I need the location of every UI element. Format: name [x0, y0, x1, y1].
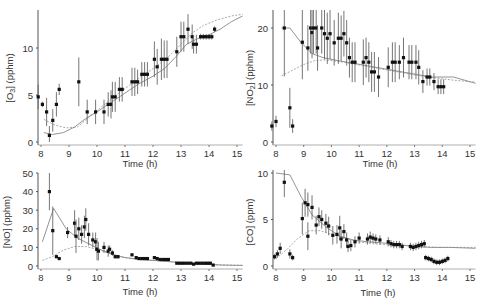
data-point — [97, 250, 100, 253]
data-point — [274, 120, 277, 123]
data-point — [335, 233, 338, 236]
o3-xlabel: Time (h) — [122, 158, 157, 169]
data-point — [410, 61, 413, 64]
data-point — [306, 46, 309, 49]
data-point — [130, 253, 133, 256]
data-point — [179, 35, 182, 38]
data-point — [276, 252, 279, 255]
data-point — [51, 119, 54, 122]
data-point — [51, 229, 54, 232]
no2-observed-points — [270, 10, 445, 133]
y-tick-label: 0 — [263, 137, 268, 148]
data-point — [387, 66, 390, 69]
data-point — [338, 226, 341, 229]
data-point — [273, 255, 276, 258]
data-point — [108, 248, 111, 251]
data-point — [441, 260, 444, 263]
no-ylabel: [NO] (pphm) — [1, 196, 12, 248]
data-point — [398, 61, 401, 64]
data-point — [130, 80, 133, 83]
data-point — [337, 37, 340, 40]
x-tick-label: 8 — [38, 148, 43, 159]
data-point — [213, 28, 216, 31]
data-point — [394, 61, 397, 64]
data-point — [373, 70, 376, 73]
data-point — [45, 110, 48, 113]
data-point — [192, 263, 195, 266]
data-point — [414, 245, 417, 248]
data-point — [200, 262, 203, 265]
data-point — [192, 43, 195, 46]
data-point — [371, 237, 374, 240]
data-point — [55, 255, 58, 258]
data-point — [423, 242, 426, 245]
data-point — [136, 80, 139, 83]
data-point — [84, 218, 87, 221]
data-point — [417, 244, 420, 247]
x-tick-label: 10 — [92, 148, 103, 159]
data-point — [391, 61, 394, 64]
data-point — [364, 56, 367, 59]
data-point — [189, 262, 192, 265]
data-point — [389, 242, 392, 245]
data-point — [207, 35, 210, 38]
y-tick-label: 50 — [22, 168, 33, 179]
data-point — [353, 61, 356, 64]
data-point — [137, 257, 140, 260]
data-point — [199, 35, 202, 38]
x-tick-label: 15 — [465, 148, 476, 159]
data-point — [143, 73, 146, 76]
x-tick-label: 8 — [273, 272, 278, 283]
data-point — [135, 256, 138, 259]
data-point — [140, 73, 143, 76]
data-point — [121, 88, 124, 91]
data-point — [346, 245, 349, 248]
data-point — [315, 223, 318, 226]
data-point — [114, 95, 117, 98]
data-point — [195, 262, 198, 265]
x-tick-label: 14 — [204, 148, 215, 159]
panel-o3-chart: [O3] (pphm) Time (h) 051089101112131415 — [4, 10, 243, 169]
data-point — [425, 75, 428, 78]
data-point — [143, 257, 146, 260]
x-tick-label: 11 — [354, 272, 364, 283]
data-point — [288, 106, 291, 109]
data-point — [301, 41, 304, 44]
data-point — [146, 73, 149, 76]
data-point — [66, 231, 69, 234]
data-point — [175, 50, 178, 53]
no-model-dashed-line — [42, 247, 242, 266]
data-point — [114, 255, 117, 258]
data-point — [210, 35, 213, 38]
data-point — [160, 58, 163, 61]
data-point — [323, 32, 326, 35]
data-point — [374, 237, 377, 240]
data-point — [378, 238, 381, 241]
data-point — [48, 134, 51, 137]
data-point — [412, 246, 415, 249]
x-tick-label: 10 — [326, 148, 337, 159]
data-point — [205, 35, 208, 38]
data-point — [310, 206, 313, 209]
y-tick-label: 20 — [257, 23, 268, 34]
x-tick-label: 12 — [382, 148, 393, 159]
data-point — [340, 237, 343, 240]
panel-no2-chart: [NO2] (pphm) Time (h) 010208910111213141… — [244, 10, 476, 169]
data-point — [87, 233, 90, 236]
data-point — [437, 85, 440, 88]
data-point — [178, 262, 181, 265]
co-observed-points — [273, 170, 449, 265]
y-tick-label: 5 — [28, 90, 33, 101]
y-tick-label: 30 — [22, 205, 33, 216]
no-observed-points — [48, 173, 215, 267]
data-point — [206, 262, 209, 265]
x-tick-label: 9 — [301, 272, 306, 283]
panel-no-chart: [NO] (pphm) Time (h) 0102030405089101112… — [1, 168, 243, 298]
data-point — [283, 26, 286, 29]
data-point — [140, 257, 143, 260]
data-point — [182, 35, 185, 38]
data-point — [202, 35, 205, 38]
co-ylabel: [CO] (ppm) — [244, 199, 255, 246]
data-point — [164, 258, 167, 261]
data-point — [107, 103, 110, 106]
